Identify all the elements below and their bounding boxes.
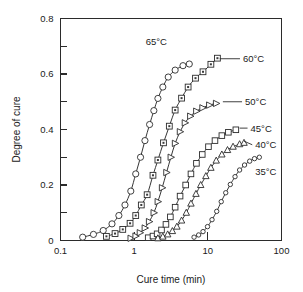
series-labels-group: 65°C60°C50°C45°C40°C35°C bbox=[146, 36, 277, 176]
marker-dot-60C-10 bbox=[168, 125, 170, 127]
marker-45C-6 bbox=[172, 204, 178, 210]
marker-45C-9 bbox=[188, 171, 194, 177]
marker-45C-13 bbox=[212, 138, 218, 144]
marker-45C-15 bbox=[226, 129, 232, 135]
marker-35C-9 bbox=[233, 174, 237, 178]
figure-container: 65°C60°C50°C45°C40°C35°C 00.20.40.60.80.… bbox=[0, 0, 303, 292]
marker-dot-60C-2 bbox=[122, 228, 124, 230]
marker-dot-60C-1 bbox=[114, 233, 116, 235]
marker-45C-16 bbox=[233, 127, 239, 133]
marker-dot-60C-12 bbox=[181, 97, 183, 99]
marker-45C-4 bbox=[163, 222, 169, 228]
marker-65C-9 bbox=[142, 138, 148, 144]
marker-65C-2 bbox=[100, 227, 106, 233]
marker-50C-16 bbox=[207, 102, 213, 108]
marker-65C-11 bbox=[151, 108, 157, 114]
marker-45C-14 bbox=[219, 133, 225, 139]
marker-dot-60C-4 bbox=[135, 215, 137, 217]
marker-35C-4 bbox=[210, 217, 214, 221]
x-axis-title: Cure time (min) bbox=[137, 274, 206, 285]
marker-45C-5 bbox=[168, 214, 174, 220]
marker-35C-3 bbox=[205, 224, 209, 228]
series-label-40C: 40°C bbox=[255, 139, 276, 150]
series-label-50C: 50°C bbox=[245, 96, 266, 107]
marker-65C-12 bbox=[155, 95, 161, 101]
marker-dot-60C-11 bbox=[174, 109, 176, 111]
marker-35C-13 bbox=[252, 156, 256, 160]
marker-35C-14 bbox=[257, 155, 261, 159]
cure-kinetics-chart: 65°C60°C50°C45°C40°C35°C 00.20.40.60.80.… bbox=[0, 0, 303, 292]
series-label-45C: 45°C bbox=[251, 123, 272, 134]
marker-dot-60C-3 bbox=[129, 222, 131, 224]
marker-40C-6 bbox=[183, 209, 189, 215]
marker-35C-12 bbox=[247, 159, 251, 163]
marker-40C-8 bbox=[193, 190, 199, 196]
marker-35C-8 bbox=[228, 182, 232, 186]
marker-65C-5 bbox=[122, 202, 128, 208]
marker-50C-11 bbox=[177, 129, 183, 135]
marker-50C-12 bbox=[182, 120, 188, 126]
marker-65C-10 bbox=[147, 121, 153, 127]
marker-dot-60C-17 bbox=[216, 57, 218, 59]
marker-dot-60C-15 bbox=[202, 71, 204, 73]
y-axis-title: Degree of cure bbox=[11, 96, 22, 163]
marker-65C-1 bbox=[90, 231, 96, 237]
marker-35C-2 bbox=[201, 229, 205, 233]
marker-35C-11 bbox=[242, 163, 246, 167]
marker-40C-9 bbox=[197, 182, 203, 188]
marker-65C-17 bbox=[186, 61, 192, 67]
marker-50C-14 bbox=[194, 108, 200, 114]
marker-dot-60C-7 bbox=[152, 174, 154, 176]
marker-35C-1 bbox=[196, 233, 200, 237]
x-tick-label-0: 0.1 bbox=[54, 245, 67, 256]
marker-35C-0 bbox=[192, 235, 196, 239]
marker-65C-14 bbox=[165, 74, 171, 80]
series-label-35C: 35°C bbox=[255, 166, 276, 177]
marker-40C-10 bbox=[203, 173, 209, 179]
marker-40C-5 bbox=[178, 217, 184, 223]
marker-35C-6 bbox=[219, 199, 223, 203]
marker-dot-60C-8 bbox=[157, 159, 159, 161]
marker-65C-6 bbox=[128, 188, 134, 194]
marker-65C-13 bbox=[160, 84, 166, 90]
marker-dot-60C-9 bbox=[162, 142, 164, 144]
series-label-65C: 65°C bbox=[146, 36, 167, 47]
marker-45C-7 bbox=[177, 193, 183, 199]
series-label-60C: 60°C bbox=[243, 53, 264, 64]
y-tick-label-2: 0.4 bbox=[40, 124, 53, 135]
marker-dot-60C-0 bbox=[105, 235, 107, 237]
marker-40C-7 bbox=[188, 200, 194, 206]
marker-45C-3 bbox=[159, 227, 165, 233]
marker-50C-5 bbox=[151, 210, 157, 216]
marker-65C-15 bbox=[172, 67, 178, 73]
marker-40C-13 bbox=[219, 151, 225, 157]
x-tick-label-3: 100 bbox=[274, 245, 290, 256]
marker-35C-10 bbox=[237, 168, 241, 172]
marker-45C-8 bbox=[183, 182, 189, 188]
marker-35C-7 bbox=[224, 191, 228, 195]
marker-45C-11 bbox=[199, 152, 205, 158]
curve-35C bbox=[194, 157, 259, 237]
marker-45C-12 bbox=[206, 144, 212, 150]
marker-dot-60C-16 bbox=[210, 63, 212, 65]
marker-dot-60C-6 bbox=[146, 194, 148, 196]
marker-65C-16 bbox=[180, 63, 186, 69]
marker-dot-60C-13 bbox=[187, 86, 189, 88]
marker-35C-5 bbox=[215, 209, 219, 213]
marker-65C-3 bbox=[109, 221, 115, 227]
marker-dot-60C-14 bbox=[194, 77, 196, 79]
y-tick-label-4: 0.8 bbox=[40, 13, 53, 24]
marker-50C-15 bbox=[200, 105, 206, 111]
marker-65C-7 bbox=[133, 171, 139, 177]
marker-50C-4 bbox=[146, 218, 152, 224]
marker-50C-3 bbox=[142, 225, 148, 231]
marker-65C-8 bbox=[137, 154, 143, 160]
marker-65C-4 bbox=[116, 212, 122, 218]
marker-dot-60C-5 bbox=[140, 204, 142, 206]
marker-45C-10 bbox=[194, 161, 200, 167]
x-tick-label-2: 10 bbox=[203, 245, 214, 256]
marker-65C-0 bbox=[80, 234, 86, 240]
markers-group bbox=[80, 55, 262, 241]
marker-50C-17 bbox=[213, 100, 219, 106]
x-tick-label-1: 1 bbox=[132, 245, 137, 256]
